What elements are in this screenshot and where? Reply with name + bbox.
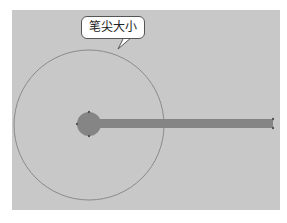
brush-nib bbox=[77, 112, 101, 136]
brush-size-callout: 笔尖大小 bbox=[81, 16, 145, 39]
brush-stroke-bar bbox=[96, 119, 273, 128]
